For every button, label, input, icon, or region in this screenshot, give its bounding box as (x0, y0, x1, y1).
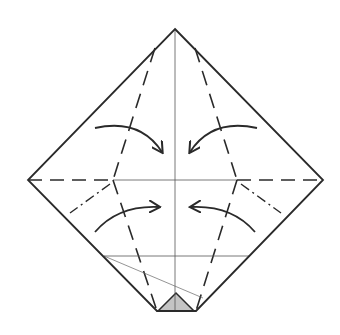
valley-fold-upper-left (113, 48, 155, 180)
reference-line-diagonal (104, 256, 203, 298)
paper-outline (28, 29, 323, 311)
fold-arrow-upper-right (190, 126, 257, 152)
fold-arrow-lower-left (95, 207, 159, 232)
valley-fold-upper-right (195, 48, 237, 180)
shaded-triangle (158, 293, 194, 311)
origami-diagram: Square paper in diamond orientation with… (0, 0, 340, 335)
diagram-canvas (0, 0, 340, 335)
valley-fold-lower-left (113, 180, 157, 311)
mountain-fold-left (70, 184, 110, 213)
fold-arrow-lower-right (191, 207, 255, 232)
valley-fold-lower-right (196, 180, 237, 311)
mountain-fold-right (241, 184, 281, 213)
